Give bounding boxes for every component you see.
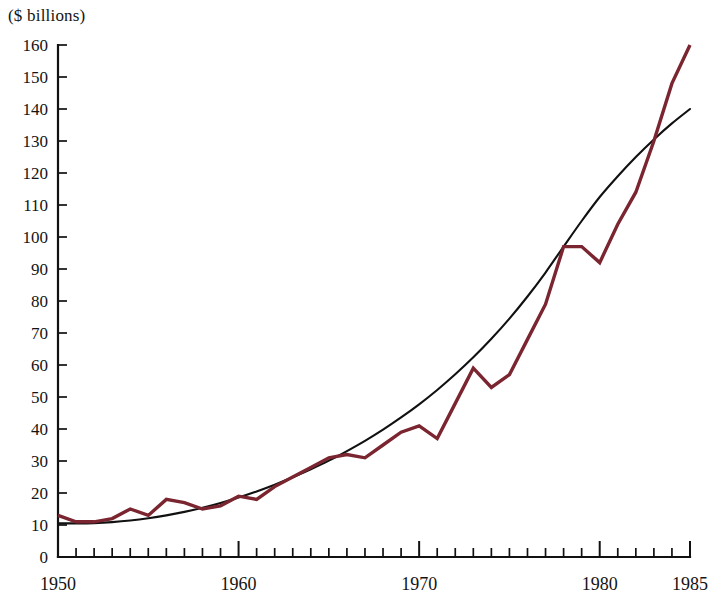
y-axis-ticks [58, 45, 67, 525]
y-tick-label-160: 160 [23, 36, 49, 55]
y-tick-label-50: 50 [31, 388, 48, 407]
y-tick-label-80: 80 [31, 292, 48, 311]
y-tick-label-150: 150 [23, 68, 49, 87]
y-tick-label-130: 130 [23, 132, 49, 151]
x-tick-label-1960: 1960 [221, 574, 257, 594]
x-tick-label-1950: 1950 [40, 574, 76, 594]
y-tick-label-110: 110 [23, 196, 48, 215]
x-axis-tick-labels: 19501960197019801985 [40, 574, 708, 594]
x-tick-label-1985: 1985 [672, 574, 708, 594]
y-tick-label-40: 40 [31, 420, 48, 439]
y-tick-label-20: 20 [31, 484, 48, 503]
chart-container: ($ billions) 010203040506070809010011012… [0, 0, 723, 598]
y-tick-label-120: 120 [23, 164, 49, 183]
x-tick-label-1980: 1980 [582, 574, 618, 594]
x-axis-ticks [58, 541, 690, 557]
data-series-line [58, 45, 690, 522]
y-tick-label-30: 30 [31, 452, 48, 471]
y-tick-label-0: 0 [40, 548, 49, 567]
y-tick-label-90: 90 [31, 260, 48, 279]
x-tick-label-1970: 1970 [401, 574, 437, 594]
y-tick-label-140: 140 [23, 100, 49, 119]
y-tick-label-100: 100 [23, 228, 49, 247]
trend-curve-line [58, 109, 690, 523]
y-tick-label-10: 10 [31, 516, 48, 535]
y-tick-label-70: 70 [31, 324, 48, 343]
y-tick-label-60: 60 [31, 356, 48, 375]
line-chart-plot: 0102030405060708090100110120130140150160… [0, 0, 723, 598]
y-axis-tick-labels: 0102030405060708090100110120130140150160 [23, 36, 49, 567]
